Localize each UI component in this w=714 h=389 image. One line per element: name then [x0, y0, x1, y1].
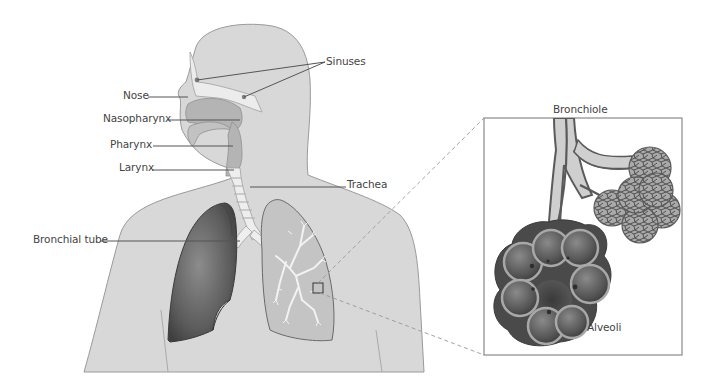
label-pharynx: Pharynx [110, 139, 152, 150]
body-silhouette [84, 24, 424, 372]
label-trachea: Trachea [347, 179, 387, 190]
label-nasopharynx: Nasopharynx [103, 113, 171, 124]
label-bronchial-tube: Bronchial tube [33, 234, 108, 245]
label-nose: Nose [123, 90, 149, 101]
label-bronchiole: Bronchiole [553, 104, 608, 115]
alveoli-inset [484, 118, 682, 355]
label-larynx: Larynx [119, 162, 154, 173]
respiratory-diagram: Sinuses Nose Nasopharynx Pharynx Larynx … [0, 0, 714, 389]
label-alveoli: Alveoli [587, 322, 621, 333]
label-sinuses: Sinuses [326, 56, 366, 67]
